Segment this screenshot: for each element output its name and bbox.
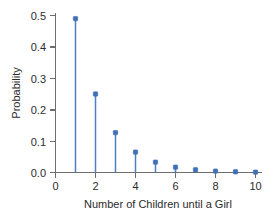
data-point-marker [73,16,77,20]
y-tick-label: 0.4 [31,41,46,53]
x-tick-label: 2 [92,180,98,192]
data-point-marker [233,170,237,174]
data-point-marker [173,165,177,169]
data-point-marker [113,130,117,134]
data-point-marker [153,160,157,164]
x-tick-label: 0 [52,180,58,192]
data-point-marker [253,170,257,174]
x-axis-title: Number of Children until a Girl [84,198,232,210]
data-point-marker [93,92,97,96]
y-tick-label: 0.5 [31,10,46,22]
chart-figure: 0.5 0.4 0.3 0.2 0.1 0.0 0 2 4 6 8 10 [0,0,275,218]
data-point-marker [133,150,137,154]
y-tick-label: 0.3 [31,73,46,85]
x-tick-label: 4 [132,180,138,192]
stem-plot: 0.5 0.4 0.3 0.2 0.1 0.0 0 2 4 6 8 10 [0,0,275,218]
x-tick-label: 6 [172,180,178,192]
y-axis-title: Probability [10,67,22,119]
y-tick-label: 0.1 [31,136,46,148]
data-point-marker [213,169,217,173]
x-tick-label: 8 [212,180,218,192]
y-tick-label: 0.2 [31,104,46,116]
data-point-marker [193,168,197,172]
x-tick-label: 10 [249,180,261,192]
y-tick-label: 0.0 [31,167,46,179]
